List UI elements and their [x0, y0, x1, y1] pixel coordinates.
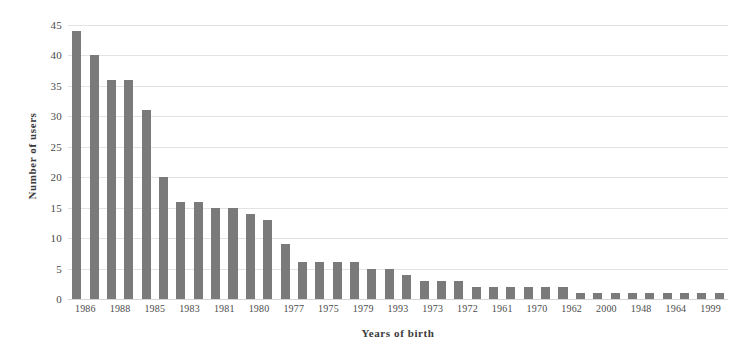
bar [263, 220, 272, 299]
y-axis-tick-label: 10 [34, 232, 62, 244]
x-axis-tick-label: 1986 [75, 303, 96, 314]
bar [142, 110, 151, 299]
bar [194, 202, 203, 299]
bar [159, 177, 168, 299]
bar [593, 293, 602, 299]
x-axis-tick-label: 1961 [492, 303, 513, 314]
bar [576, 293, 585, 299]
bar [645, 293, 654, 299]
bar [124, 80, 133, 299]
y-axis-tick-label: 20 [34, 171, 62, 183]
x-axis-tick-label: 1993 [388, 303, 409, 314]
gridline [68, 299, 728, 300]
x-axis-tick-label: 1962 [561, 303, 582, 314]
y-axis-tick-label: 5 [34, 263, 62, 275]
x-axis-tick-label: 1979 [353, 303, 374, 314]
bars-container [68, 25, 728, 299]
bar [437, 281, 446, 299]
bar [558, 287, 567, 299]
bar [298, 262, 307, 299]
bar [454, 281, 463, 299]
bar [385, 269, 394, 299]
y-axis-tick-label: 30 [34, 110, 62, 122]
y-axis-tick-label: 45 [34, 19, 62, 31]
bar [315, 262, 324, 299]
x-axis-tick-label: 1988 [110, 303, 131, 314]
bar [228, 208, 237, 299]
bar [541, 287, 550, 299]
bar [715, 293, 724, 299]
bar [663, 293, 672, 299]
x-axis-tick-label: 1972 [457, 303, 478, 314]
y-axis-tick-label: 0 [34, 293, 62, 305]
x-axis-tick-label: 1983 [179, 303, 200, 314]
bar [90, 55, 99, 299]
bar [281, 244, 290, 299]
x-axis-tick-label: 1975 [318, 303, 339, 314]
bar [697, 293, 706, 299]
x-axis-tick-label: 1964 [665, 303, 686, 314]
x-axis-tick-label: 1977 [283, 303, 304, 314]
bar [350, 262, 359, 299]
x-axis-tick-label: 1985 [144, 303, 165, 314]
bar [506, 287, 515, 299]
x-axis-title: Years of birth [68, 327, 728, 339]
bar [107, 80, 116, 299]
y-axis-tick-label: 35 [34, 80, 62, 92]
x-axis-tick-label: 1981 [214, 303, 235, 314]
bar [211, 208, 220, 299]
bar [176, 202, 185, 299]
bar [367, 269, 376, 299]
x-axis-tick-label: 1980 [249, 303, 270, 314]
y-axis-tick-label: 40 [34, 49, 62, 61]
y-axis-tick-label: 15 [34, 202, 62, 214]
bar [472, 287, 481, 299]
bar [72, 31, 81, 299]
bar [333, 262, 342, 299]
y-axis-tick-label: 25 [34, 141, 62, 153]
bar [402, 275, 411, 299]
bar [246, 214, 255, 299]
x-axis-tick-label: 2000 [596, 303, 617, 314]
x-axis-tick-labels: 1986198819851983198119801977197519791993… [68, 303, 728, 319]
x-axis-tick-label: 1999 [700, 303, 721, 314]
x-axis-tick-label: 1973 [422, 303, 443, 314]
x-axis-tick-label: 1970 [527, 303, 548, 314]
bar [611, 293, 620, 299]
bar [524, 287, 533, 299]
bar [489, 287, 498, 299]
bar [420, 281, 429, 299]
x-axis-tick-label: 1948 [631, 303, 652, 314]
bar [680, 293, 689, 299]
bar-chart: Number of users 198619881985198319811980… [0, 0, 745, 355]
bar [628, 293, 637, 299]
